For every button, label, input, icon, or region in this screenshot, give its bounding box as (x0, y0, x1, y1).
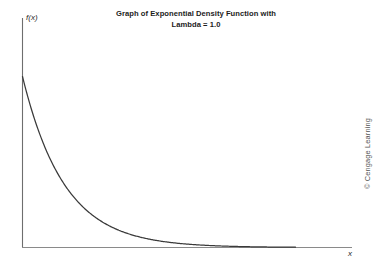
x-axis-label: x (348, 249, 352, 259)
y-axis-label: f(x) (26, 13, 38, 23)
copyright-credit: © Cengage Learning (363, 105, 372, 189)
exponential-density-curve (23, 77, 296, 248)
exponential-density-figure: Graph of Exponential Density Function wi… (0, 0, 392, 268)
plot-area (0, 0, 392, 268)
